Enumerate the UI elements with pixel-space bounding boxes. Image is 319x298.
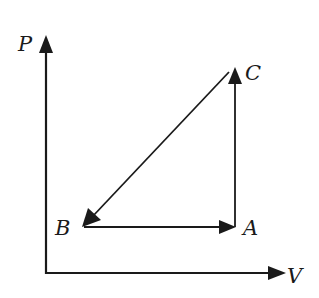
arrowhead-icon <box>219 220 236 234</box>
process-a-to-c <box>228 67 242 227</box>
point-c-label: C <box>245 61 261 85</box>
point-a-label: A <box>241 216 258 240</box>
v-axis-label: V <box>287 264 304 288</box>
point-b-label: B <box>54 216 70 240</box>
process-b-to-a <box>84 220 236 234</box>
v-axis-arrowhead-icon <box>268 266 286 280</box>
process-c-to-b <box>82 72 229 227</box>
v-axis <box>45 266 286 280</box>
p-axis-label: P <box>17 32 33 56</box>
arrowhead-icon <box>228 67 242 84</box>
pv-diagram: P V C B A <box>0 0 319 298</box>
p-axis <box>39 35 53 274</box>
p-axis-arrowhead-icon <box>39 35 53 53</box>
